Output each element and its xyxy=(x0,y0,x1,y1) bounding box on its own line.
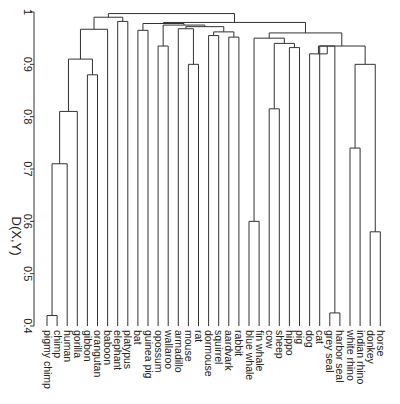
dendrogram-branch xyxy=(52,164,67,326)
dendrogram-branch xyxy=(94,17,123,29)
dendrogram-branch xyxy=(87,75,97,326)
y-tick-label: 1 xyxy=(22,9,34,15)
dendrogram-tree xyxy=(47,14,380,326)
y-tick-label: 0.4 xyxy=(22,318,34,333)
dendrogram-chart: 0.40.50.60.70.80.91 pigmy chimpchimphuma… xyxy=(0,0,400,404)
dendrogram-branch xyxy=(320,46,335,326)
dendrogram-branch xyxy=(214,32,234,37)
dendrogram-branch xyxy=(330,313,340,326)
dendrogram-svg: 0.40.50.60.70.80.91 pigmy chimpchimphuma… xyxy=(0,0,400,404)
dendrogram-branch xyxy=(47,316,57,326)
dendrogram-branch xyxy=(60,111,78,326)
leaf-labels: pigmy chimpchimphumangorillagibbonorangu… xyxy=(42,329,387,389)
dendrogram-branch xyxy=(178,29,193,326)
dendrogram-branch xyxy=(274,43,294,108)
dendrogram-branch xyxy=(269,109,279,326)
dendrogram-branch xyxy=(158,46,168,326)
dendrogram-branch xyxy=(289,48,299,326)
dendrogram-branch xyxy=(163,25,205,46)
y-tick-label: 0.7 xyxy=(22,161,34,176)
dendrogram-branch xyxy=(80,29,107,326)
dendrogram-branch xyxy=(68,59,92,111)
y-tick-label: 0.9 xyxy=(22,57,34,72)
dendrogram-branch xyxy=(138,30,148,326)
y-tick-label: 0.5 xyxy=(22,266,34,281)
y-axis-label: D(X,Y) xyxy=(9,217,24,256)
dendrogram-branch xyxy=(229,37,239,326)
dendrogram-branch xyxy=(188,64,198,326)
y-tick-label: 0.8 xyxy=(22,109,34,124)
dendrogram-branch xyxy=(163,22,305,32)
dendrogram-branch xyxy=(318,46,365,64)
leaf-label: horse xyxy=(375,330,387,356)
dendrogram-branch xyxy=(249,221,259,326)
dendrogram-branch xyxy=(370,232,380,326)
dendrogram-branch xyxy=(186,27,224,32)
y-axis: 0.40.50.60.70.80.91 xyxy=(22,9,34,334)
dendrogram-branch xyxy=(350,148,360,326)
dendrogram-branch xyxy=(209,36,219,326)
dendrogram-branch xyxy=(310,46,328,326)
dendrogram-branch xyxy=(118,21,128,326)
dendrogram-branch xyxy=(269,33,342,46)
